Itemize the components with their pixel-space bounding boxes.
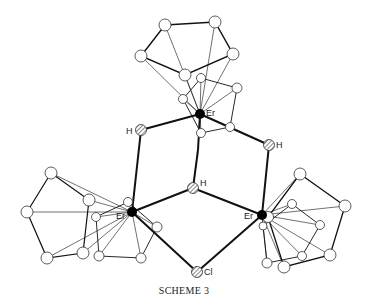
- hydride-atom-center: [188, 183, 199, 194]
- erbium-atom-top: [195, 109, 205, 119]
- label-er-left: Er: [116, 211, 125, 221]
- molecular-structure-diagram: Er Er Er H H H Cl SCHEME 3: [0, 0, 368, 304]
- erbium-atom-left: [127, 207, 137, 217]
- hydride-atom-left: [136, 125, 147, 136]
- hydride-atom-right: [264, 140, 275, 151]
- label-h-right: H: [276, 140, 283, 150]
- label-er-right: Er: [244, 211, 253, 221]
- erbium-atom-right: [257, 210, 267, 220]
- chloride-atom: [192, 267, 203, 278]
- label-h-center: H: [200, 178, 207, 188]
- label-er-top: Er: [206, 108, 215, 118]
- label-h-left: H: [126, 126, 133, 136]
- scheme-caption: SCHEME 3: [159, 285, 209, 296]
- label-cl: Cl: [204, 267, 213, 277]
- ring-carbon-atoms: [21, 16, 351, 273]
